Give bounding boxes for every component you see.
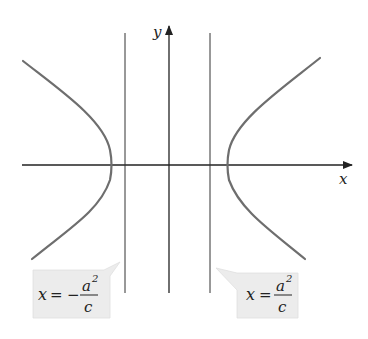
eq-numerator: a <box>82 277 91 295</box>
left-hyperbola-branch <box>23 61 112 259</box>
eq-equals: = <box>50 286 63 304</box>
eq-minus-sign: − <box>67 286 80 304</box>
eq-numerator: a <box>276 277 285 295</box>
right-hyperbola-branch <box>228 58 321 259</box>
eq-lhs: x <box>246 285 255 304</box>
y-axis-label: y <box>152 23 162 41</box>
eq-equals: = <box>259 286 272 304</box>
eq-exponent: 2 <box>285 273 292 284</box>
eq-denominator: c <box>84 298 93 316</box>
eq-denominator: c <box>278 298 287 316</box>
hyperbola-diagram: y x x = − a 2 c x = a 2 c <box>0 0 368 339</box>
diagram-svg: y x x = − a 2 c x = a 2 c <box>0 0 368 339</box>
x-axis-label: x <box>339 170 348 188</box>
eq-lhs: x <box>38 285 47 304</box>
eq-exponent: 2 <box>91 273 98 284</box>
